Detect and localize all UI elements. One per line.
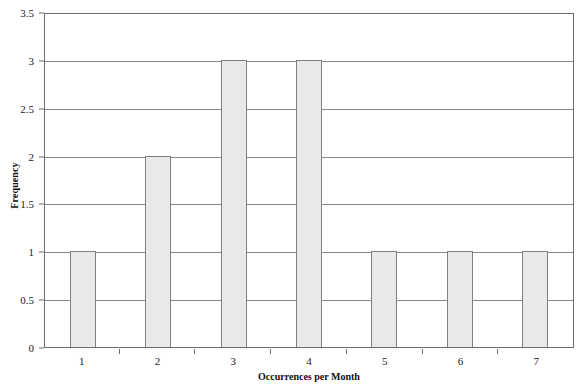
bar[interactable] xyxy=(221,60,247,347)
bar-slot xyxy=(120,14,195,347)
y-tick-label: 2.5 xyxy=(20,103,34,114)
y-tick-label: 0 xyxy=(29,343,35,354)
y-tick-label: 3.5 xyxy=(20,8,34,19)
bar-slot xyxy=(271,14,346,347)
y-tick-label: 1.5 xyxy=(20,199,34,210)
bar[interactable] xyxy=(522,251,548,347)
bar[interactable] xyxy=(296,60,322,347)
bar-slot xyxy=(498,14,573,347)
x-tick-cell: 5 xyxy=(347,349,423,371)
x-tick-cell: 4 xyxy=(271,349,347,371)
plot-area xyxy=(44,13,574,348)
x-tick-label: 7 xyxy=(498,356,574,367)
bar-slot xyxy=(347,14,422,347)
x-tick-label: 2 xyxy=(120,356,196,367)
y-tick-label: 0.5 xyxy=(20,295,34,306)
x-tick-label: 4 xyxy=(271,356,347,367)
bar[interactable] xyxy=(70,251,96,347)
x-tick-label: 6 xyxy=(423,356,499,367)
x-tick-cell: 3 xyxy=(195,349,271,371)
y-axis-title: Frequency xyxy=(9,146,20,226)
x-tick-label: 3 xyxy=(195,356,271,367)
x-tick-cell: 1 xyxy=(44,349,120,371)
x-tick-cell: 7 xyxy=(498,349,574,371)
bar[interactable] xyxy=(371,251,397,347)
bar-slot xyxy=(196,14,271,347)
x-tick-label: 1 xyxy=(44,356,120,367)
y-tick-label: 3 xyxy=(29,55,35,66)
y-tick-label: 2 xyxy=(29,151,35,162)
x-tick-label: 5 xyxy=(347,356,423,367)
x-tick-cell: 2 xyxy=(120,349,196,371)
y-tick-label: 1 xyxy=(29,247,35,258)
bars-layer xyxy=(45,14,573,347)
bar-slot xyxy=(422,14,497,347)
bar-slot xyxy=(45,14,120,347)
bar[interactable] xyxy=(145,156,171,347)
bar[interactable] xyxy=(447,251,473,347)
x-axis: 1234567 xyxy=(44,349,574,371)
histogram-figure: 3.5 3 2.5 2 1.5 1 0.5 0 Frequency 123456… xyxy=(0,0,581,389)
y-axis: 3.5 3 2.5 2 1.5 1 0.5 0 xyxy=(0,0,40,389)
x-axis-title: Occurrences per Month xyxy=(44,371,574,382)
x-tick-cell: 6 xyxy=(423,349,499,371)
